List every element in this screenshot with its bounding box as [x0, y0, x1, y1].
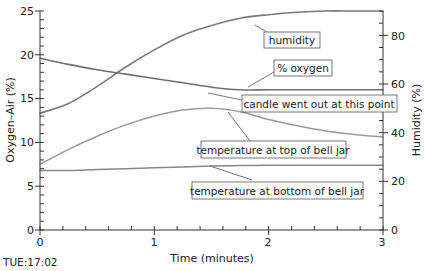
- y2-tick-label: 60: [391, 78, 405, 91]
- right-tick-labels: 0 20 40 60 80: [391, 30, 405, 237]
- chart: 0 5 10 15 20 25 0 20 40 60 80 0 1 2 3 Ti…: [0, 0, 429, 271]
- timestamp: TUE:17:02: [2, 256, 58, 268]
- y-axis-title: Oxygen–Air (%): [4, 77, 17, 163]
- y-tick-label: 15: [20, 92, 34, 105]
- annotation-temp-bottom: temperature at bottom of bell jar: [190, 185, 365, 197]
- x-tick-label: 3: [379, 236, 386, 249]
- left-tick-labels: 0 5 10 15 20 25: [20, 5, 34, 237]
- x-axis-title: Time (minutes): [169, 252, 254, 265]
- y2-tick-label: 40: [391, 127, 405, 140]
- y-tick-label: 0: [27, 224, 34, 237]
- annotation-labels: humidity % oxygen candle went out at thi…: [190, 34, 395, 197]
- annotation-leader: [248, 72, 274, 87]
- y-tick-label: 5: [27, 180, 34, 193]
- annotation-candle: candle went out at this point: [243, 98, 394, 110]
- annotation-temp-top: temperature at top of bell jar: [196, 144, 350, 156]
- annotation-leader: [208, 93, 242, 100]
- y2-tick-label: 20: [391, 175, 405, 188]
- annotation-humidity: humidity: [269, 34, 315, 46]
- x-tick-label: 2: [265, 236, 272, 249]
- annotation-leader: [228, 112, 250, 141]
- axes: [35, 11, 388, 235]
- y2-tick-label: 0: [391, 224, 398, 237]
- y-tick-label: 25: [20, 5, 34, 18]
- y2-tick-label: 80: [391, 30, 405, 43]
- y-tick-label: 20: [20, 49, 34, 62]
- y2-axis-title: Humidity (%): [410, 84, 423, 156]
- x-tick-label: 0: [37, 236, 44, 249]
- x-tick-labels: 0 1 2 3: [37, 236, 386, 249]
- annotation-leader: [210, 166, 252, 180]
- temp-bottom-line: [40, 165, 383, 170]
- x-tick-label: 1: [151, 236, 158, 249]
- annotations: [192, 25, 397, 199]
- y-tick-label: 10: [20, 136, 34, 149]
- annotation-oxygen: % oxygen: [277, 62, 329, 74]
